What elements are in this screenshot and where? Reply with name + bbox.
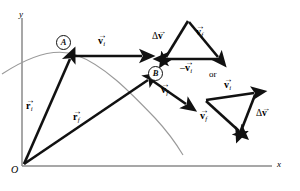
- subscript-v-i-main: i: [103, 40, 105, 47]
- subscript-v-i-bottom: i: [229, 84, 231, 91]
- label-vector-v-f-at-B: →vf: [161, 84, 168, 96]
- label-triangle-top-delta-v: Δ→v: [152, 31, 163, 41]
- arrow-accent-v-i-main: →: [98, 31, 104, 40]
- triangle-bottom-vector-delta-v: [241, 95, 255, 131]
- arrow-accent-v-f-top: →: [196, 22, 202, 31]
- triangle-bottom-vector-v-i: [206, 93, 254, 100]
- label-triangle-bottom-v-i: →vi: [224, 79, 231, 91]
- triangle-top-vector-delta-v: [166, 21, 188, 57]
- subscript-r-f: f: [78, 116, 80, 123]
- point-marker-a: A: [56, 35, 71, 50]
- arrow-accent-r-f: →: [73, 107, 78, 116]
- label-vector-v-i-at-A: →vi: [98, 35, 105, 47]
- arrow-accent-minus-v-i: →: [185, 58, 191, 67]
- subscript-v-f-top: f: [201, 31, 203, 38]
- label-triangle-bottom-delta-v: Δ→v: [256, 108, 267, 118]
- vector-triangle-top: [166, 21, 218, 59]
- x-axis-label: x: [277, 159, 281, 169]
- arrow-accent-delta-v-bottom: →: [262, 105, 268, 113]
- label-triangle-bottom-v-f: →vf: [200, 110, 207, 122]
- arrow-accent-v-f-main: →: [161, 80, 167, 89]
- subscript-minus-v-i: i: [190, 67, 192, 74]
- label-triangle-top-v-f: →vf: [196, 26, 203, 38]
- subscript-v-f-main: f: [166, 89, 168, 96]
- origin-label: O: [11, 164, 18, 175]
- label-vector-r-f: →rf: [73, 111, 80, 123]
- subscript-v-f-bottom: f: [205, 115, 207, 122]
- vector-diagram-figure: [0, 0, 300, 191]
- y-axis-label: y: [19, 9, 23, 19]
- triangle-bottom-vector-v-f: [206, 101, 239, 131]
- vector-triangle-bottom: [206, 93, 255, 131]
- label-triangle-top-minus-v-i: –→vi: [180, 62, 192, 74]
- label-vector-r-i: →ri: [26, 100, 33, 112]
- subscript-r-i: i: [31, 105, 33, 112]
- arrow-accent-r-i: →: [26, 96, 31, 105]
- connector-or-text: or: [209, 69, 217, 79]
- arrow-accent-v-f-bottom: →: [200, 106, 206, 115]
- arrow-accent-delta-v-top: →: [158, 28, 164, 36]
- arrow-accent-v-i-bottom: →: [224, 75, 230, 84]
